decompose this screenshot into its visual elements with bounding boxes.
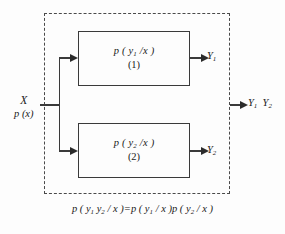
channel-box-2: p ( y2 /x ) (2) xyxy=(78,123,190,178)
channel-2-formula-base: p ( y xyxy=(114,137,134,148)
equation-rhs2-p: p ( y xyxy=(172,203,191,214)
channel-1-output-subscript: 1 xyxy=(213,55,216,62)
channel-2-formula-tail: /x ) xyxy=(137,137,154,148)
equation-rhs1-p: p ( y xyxy=(131,203,150,214)
channel-2-output-subscript: 2 xyxy=(213,148,216,155)
input-distribution-label: p (x) xyxy=(14,108,34,120)
channel-1-formula-base: p ( y xyxy=(114,45,134,56)
equation-lhs-p: p ( y xyxy=(72,203,91,214)
combined-output-label: Y1 Y2 xyxy=(248,97,272,110)
diagram-canvas: X p (x) p ( y1 /x ) (1) p ( y2 /x ) (2) … xyxy=(0,0,285,234)
channel-1-formula-tail: /x ) xyxy=(137,45,154,56)
channel-1-output-label: Y1 xyxy=(207,50,216,63)
equation-rhs2-tail: / x ) xyxy=(194,203,213,214)
input-label-group: X p (x) xyxy=(14,94,34,119)
combined-output-second-subscript: 2 xyxy=(268,102,271,109)
equation-lhs-tail: / x ) xyxy=(105,203,124,214)
channel-2-formula: p ( y2 /x ) xyxy=(114,137,155,150)
input-source-label: X xyxy=(14,94,34,107)
arrowhead-into-channel-2-icon xyxy=(70,147,78,155)
equation-equals-sign: = xyxy=(124,203,131,214)
arrowhead-combined-output-icon xyxy=(240,101,248,109)
channel-1-index-label: (1) xyxy=(128,59,140,72)
wire-input-stub xyxy=(40,104,60,106)
channel-1-formula: p ( y1 /x ) xyxy=(114,45,155,58)
wire-branch-spine xyxy=(59,57,61,152)
channel-box-1: p ( y1 /x ) (1) xyxy=(78,31,190,86)
channel-2-index-label: (2) xyxy=(128,151,140,164)
wire-branch-to-channel-2 xyxy=(59,150,71,152)
arrowhead-into-channel-1-icon xyxy=(70,54,78,62)
wire-branch-to-channel-1 xyxy=(59,57,71,59)
equation-rhs1-tail: / x ) xyxy=(153,203,172,214)
channel-2-output-label: Y2 xyxy=(207,144,216,157)
caption-equation: p ( y1 y2 / x )=p ( y1 / x )p ( y2 / x ) xyxy=(0,203,285,215)
